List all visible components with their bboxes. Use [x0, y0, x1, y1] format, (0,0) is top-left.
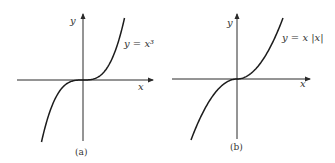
equation-label-b: y = x |x|	[281, 32, 324, 44]
equation-label-a: y = x³	[123, 38, 154, 49]
y-axis-label-b: y	[226, 17, 233, 28]
y-axis-label-a: y	[69, 15, 76, 26]
panel-caption-b: (b)	[230, 142, 243, 152]
panel-caption-a: (a)	[75, 147, 87, 157]
panel-a: x y y = x³ (a)	[17, 14, 154, 157]
figure: x y y = x³ (a) x y y = x |x| (b)	[0, 0, 335, 163]
x-axis-label-b: x	[300, 78, 306, 89]
x-axis-label-a: x	[138, 81, 144, 92]
panel-b: x y y = x |x| (b)	[172, 14, 324, 152]
